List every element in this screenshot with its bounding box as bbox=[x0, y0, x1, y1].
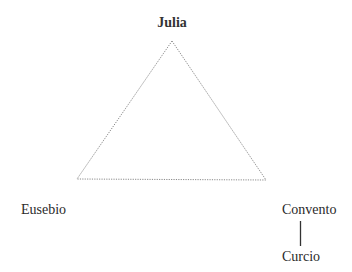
node-eusebio: Eusebio bbox=[21, 202, 66, 218]
relationship-triangle bbox=[77, 41, 266, 180]
character-relationship-diagram: Julia Eusebio Convento Curcio bbox=[0, 0, 352, 272]
diagram-lines bbox=[0, 0, 352, 272]
node-convento: Convento bbox=[282, 202, 336, 218]
node-curcio: Curcio bbox=[282, 249, 320, 265]
node-julia: Julia bbox=[157, 15, 187, 31]
